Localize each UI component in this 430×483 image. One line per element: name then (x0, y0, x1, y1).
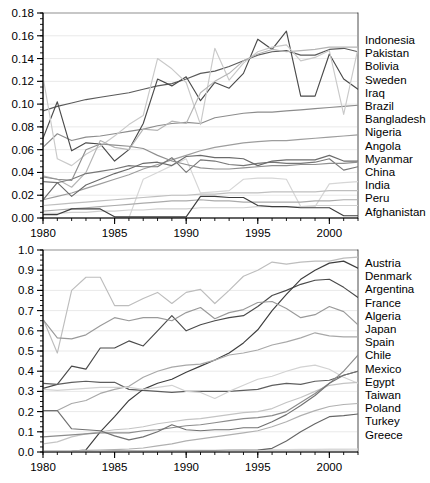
x-tick-label: 1990 (173, 227, 199, 239)
legend-item-angola: Angola (365, 140, 401, 152)
x-tick-label: 1980 (30, 227, 56, 239)
legend-item-spain: Spain (365, 336, 394, 348)
y-tick-label: 0.2 (18, 406, 34, 418)
legend-item-taiwan: Taiwan (365, 389, 401, 401)
y-tick-label: 0.02 (12, 189, 34, 201)
legend-item-greece: Greece (365, 429, 403, 441)
x-tick-label: 2000 (317, 227, 343, 239)
line-chart-bottom: 0.00.10.20.30.40.50.60.70.80.91.01980198… (0, 240, 430, 483)
y-tick-label: 1.0 (18, 244, 34, 256)
legend: AustriaDenmarkArgentinaFranceAlgeriaJapa… (365, 257, 415, 441)
y-tick-label: 0.3 (18, 385, 34, 397)
legend-item-poland: Poland (365, 402, 401, 414)
y-tick-label: 0.7 (18, 305, 34, 317)
legend-item-austria: Austria (365, 257, 401, 269)
chart-panel-bottom: 0.00.10.20.30.40.50.60.70.80.91.01980198… (0, 240, 430, 483)
x-tick-label: 1980 (30, 461, 56, 473)
legend-item-brazil: Brazil (365, 100, 394, 112)
y-tick-label: 0.04 (12, 166, 35, 178)
x-tick-label: 2000 (317, 461, 343, 473)
line-chart-top: 0.000.020.040.060.080.100.120.140.160.18… (0, 0, 430, 240)
y-tick-label: 0.12 (12, 75, 34, 87)
legend-item-sweden: Sweden (365, 74, 407, 86)
legend-item-bolivia: Bolivia (365, 60, 399, 72)
legend-item-india: India (365, 179, 391, 191)
y-tick-label: 0.1 (18, 426, 34, 438)
legend-item-denmark: Denmark (365, 270, 412, 282)
y-tick-label: 0.14 (12, 53, 35, 65)
legend-item-turkey: Turkey (365, 415, 400, 427)
legend-item-argentina: Argentina (365, 283, 415, 295)
y-tick-label: 0.6 (18, 325, 34, 337)
legend-item-chile: Chile (365, 349, 391, 361)
legend-item-japan: Japan (365, 323, 396, 335)
x-tick-label: 1985 (102, 227, 128, 239)
legend-item-nigeria: Nigeria (365, 126, 402, 138)
legend-item-pakistan: Pakistan (365, 47, 409, 59)
y-tick-label: 0.10 (12, 98, 34, 110)
legend-item-peru: Peru (365, 192, 389, 204)
legend-item-france: France (365, 297, 401, 309)
legend-item-algeria: Algeria (365, 310, 401, 322)
y-tick-label: 0.0 (18, 446, 34, 458)
y-tick-label: 0.06 (12, 144, 34, 156)
legend-item-china: China (365, 166, 396, 178)
legend-item-mexico: Mexico (365, 363, 401, 375)
legend-item-afghanistan: Afghanistan (365, 206, 426, 218)
legend-item-egypt: Egypt (365, 376, 395, 388)
legend-item-iraq: Iraq (365, 87, 385, 99)
y-tick-label: 0.00 (12, 212, 34, 224)
y-tick-label: 0.08 (12, 121, 34, 133)
legend-item-bangladesh: Bangladesh (365, 113, 426, 125)
y-tick-label: 0.16 (12, 30, 34, 42)
figure-container: 0.000.020.040.060.080.100.120.140.160.18… (0, 0, 430, 483)
x-tick-label: 1995 (245, 461, 271, 473)
x-tick-label: 1990 (173, 461, 199, 473)
chart-panel-top: 0.000.020.040.060.080.100.120.140.160.18… (0, 0, 430, 240)
y-tick-label: 0.9 (18, 264, 34, 276)
x-tick-label: 1995 (245, 227, 271, 239)
y-tick-label: 0.4 (18, 365, 35, 377)
legend-item-indonesia: Indonesia (365, 34, 415, 46)
y-tick-label: 0.18 (12, 7, 34, 19)
legend-item-myanmar: Myanmar (365, 153, 413, 165)
legend: IndonesiaPakistanBoliviaSwedenIraqBrazil… (365, 34, 426, 218)
y-tick-label: 0.5 (18, 345, 34, 357)
y-tick-label: 0.8 (18, 284, 34, 296)
x-tick-label: 1985 (102, 461, 128, 473)
